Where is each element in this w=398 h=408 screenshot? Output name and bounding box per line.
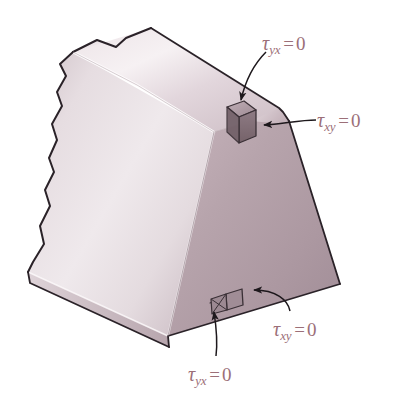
value-right: 0 xyxy=(351,110,361,131)
equals-sign-right: = xyxy=(338,110,349,131)
tau-subscript-bottom-right: xy xyxy=(280,328,291,343)
upper-stress-element xyxy=(227,101,256,143)
block-diagram-canvas xyxy=(0,0,398,408)
label-tau-xy-bottom: τxy=0 xyxy=(273,319,317,342)
label-tau-yx-bottom: τyx=0 xyxy=(188,364,232,387)
value-bottom: 0 xyxy=(222,364,232,385)
label-tau-yx-top: τyx=0 xyxy=(262,33,306,56)
equals-sign-top: = xyxy=(283,33,294,54)
value-top: 0 xyxy=(296,33,306,54)
value-bottom-right: 0 xyxy=(307,319,317,340)
label-tau-xy-right: τxy=0 xyxy=(317,110,361,133)
block-body xyxy=(28,28,340,347)
equals-sign-bottom: = xyxy=(209,364,220,385)
tau-subscript-bottom: yx xyxy=(195,373,206,388)
tau-subscript-top: yx xyxy=(269,42,280,57)
equals-sign-bottom-right: = xyxy=(294,319,305,340)
figure-root: τyx=0 τxy=0 τxy=0 τyx=0 xyxy=(0,0,398,408)
tau-subscript-right: xy xyxy=(324,119,335,134)
